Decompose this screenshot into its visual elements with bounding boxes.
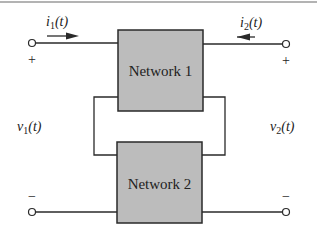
network-1-label: Network 1 <box>129 63 193 79</box>
polarity-minus-right: − <box>282 189 290 204</box>
polarity-minus-left: − <box>28 189 36 204</box>
terminal-right-top <box>283 41 290 48</box>
polarity-plus-right: + <box>282 53 290 68</box>
two-port-circuit-diagram: Network 1 Network 2 i1(t) i2(t) v1(t) v2… <box>0 0 317 238</box>
polarity-plus-left: + <box>28 52 36 67</box>
wire-left-loop <box>94 97 118 155</box>
wire-right-loop <box>202 97 225 155</box>
network-2-label: Network 2 <box>128 176 192 192</box>
current-i2-label: i2(t) <box>240 15 262 32</box>
terminal-left-bottom <box>29 209 36 216</box>
voltage-v2-label: v2(t) <box>270 119 295 136</box>
arrow-right-icon <box>47 33 79 40</box>
arrow-left-icon <box>237 34 255 41</box>
terminal-right-bottom <box>283 209 290 216</box>
voltage-v1-label: v1(t) <box>17 119 42 136</box>
current-i1-label: i1(t) <box>46 14 68 31</box>
terminal-left-top <box>29 40 36 47</box>
